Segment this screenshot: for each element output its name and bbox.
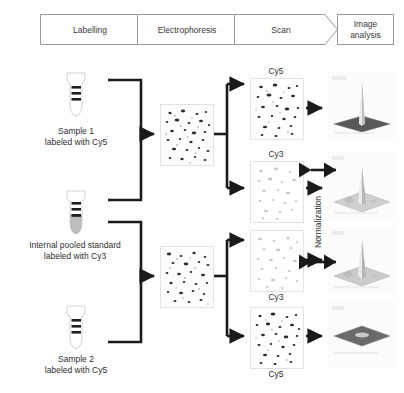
tube-sample-2	[63, 305, 89, 351]
stage-banner-scan: Scan	[234, 14, 338, 45]
stage-banner-electrophoresis: Electrophoresis	[137, 14, 247, 45]
stage-banner-image-analysis: Image analysis	[337, 14, 394, 45]
tube-internal-standard	[63, 190, 89, 236]
analysis-surface-2	[328, 152, 396, 218]
diagram-canvas: Labelling Electrophoresis Scan Image ana…	[0, 0, 404, 393]
stage-banner-label: Labelling	[40, 14, 150, 45]
analysis-surface-1	[328, 72, 396, 138]
scan-label-cy3-3: Cy3	[248, 292, 304, 302]
scan-label-cy5-4: Cy5	[248, 369, 304, 379]
gel-image-top	[160, 104, 214, 166]
scan-image-4	[250, 307, 304, 369]
stage-banner-labelling: Labelling	[40, 14, 150, 45]
scan-image-1	[250, 78, 304, 140]
caption-sample-2: Sample 2 labeled with Cy5	[6, 354, 146, 376]
normalization-label: Normalization	[313, 196, 323, 248]
stage-banner-label: Electrophoresis	[137, 14, 247, 45]
scan-image-3	[250, 230, 304, 292]
scan-label-cy3-2: Cy3	[248, 149, 304, 159]
analysis-surface-3	[328, 228, 396, 294]
scan-label-cy5-1: Cy5	[248, 66, 304, 76]
analysis-surface-4	[328, 302, 396, 368]
scan-image-2	[250, 161, 304, 223]
caption-sample-1: Sample 1 labeled with Cy5	[6, 126, 146, 148]
stage-banner-label: Scan	[234, 14, 338, 45]
gel-image-bottom	[160, 246, 214, 308]
tube-sample-1	[63, 72, 89, 118]
stage-banner-label: Image analysis	[350, 19, 381, 40]
caption-internal-standard: Internal pooled standard labeled with Cy…	[0, 240, 150, 262]
